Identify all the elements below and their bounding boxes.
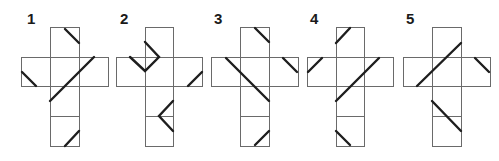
- net-face: [146, 87, 174, 117]
- net-face: [308, 58, 337, 87]
- net-face: [337, 28, 365, 58]
- cube-net-1: [22, 28, 109, 147]
- face-line-mark: [188, 72, 202, 86]
- face-line-mark: [226, 58, 269, 101]
- cube-net-2: [117, 28, 203, 147]
- net-face: [337, 58, 365, 87]
- net-face: [146, 28, 174, 58]
- net-face: [146, 117, 174, 147]
- net-face: [433, 117, 462, 147]
- net-face: [174, 58, 203, 87]
- face-line-mark: [255, 28, 269, 42]
- face-line-mark: [336, 28, 350, 43]
- net-face: [433, 28, 462, 58]
- net-face: [146, 58, 174, 87]
- cube-net-3: [212, 28, 299, 147]
- net-face: [51, 28, 80, 58]
- face-line-mark: [50, 57, 94, 101]
- face-line-mark: [475, 58, 489, 72]
- face-line-mark: [130, 42, 159, 71]
- net-face: [117, 58, 146, 87]
- net-face: [80, 58, 109, 87]
- cube-net-4: [308, 28, 394, 147]
- net-face: [270, 58, 299, 87]
- net-face: [433, 87, 462, 117]
- cube-nets-canvas: [0, 0, 499, 161]
- net-face: [404, 58, 433, 87]
- face-line-mark: [255, 131, 269, 145]
- net-face: [51, 117, 80, 147]
- net-face: [241, 58, 270, 87]
- net-face: [337, 87, 365, 117]
- net-face: [241, 117, 270, 147]
- net-face: [241, 87, 270, 117]
- face-line-mark: [65, 29, 79, 43]
- face-line-mark: [417, 43, 461, 86]
- net-face: [433, 58, 462, 87]
- cube-net-5: [404, 28, 491, 147]
- face-line-mark: [65, 131, 79, 146]
- face-line-mark: [308, 58, 322, 72]
- cube-net-puzzle: 1 2 3 4 5: [0, 0, 499, 161]
- net-face: [462, 58, 491, 87]
- net-face: [365, 58, 394, 87]
- face-line-mark: [22, 72, 36, 86]
- net-face: [212, 58, 241, 87]
- net-face: [337, 117, 365, 147]
- net-face: [51, 87, 80, 117]
- net-face: [51, 58, 80, 87]
- net-face: [22, 58, 51, 87]
- face-line-mark: [336, 131, 350, 145]
- net-face: [241, 28, 270, 58]
- face-line-mark: [283, 58, 297, 72]
- face-line-mark: [336, 58, 379, 101]
